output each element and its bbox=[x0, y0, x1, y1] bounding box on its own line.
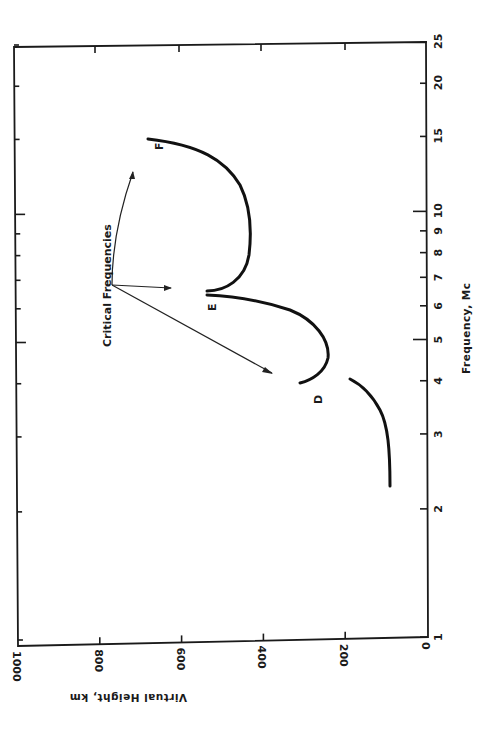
svg-text:800: 800 bbox=[92, 649, 105, 672]
plot-frame bbox=[14, 42, 428, 646]
critical-frequency-arrows bbox=[112, 171, 273, 374]
svg-text:400: 400 bbox=[255, 646, 268, 669]
svg-text:4: 4 bbox=[432, 377, 445, 385]
label-e: E bbox=[206, 303, 219, 311]
svg-text:6: 6 bbox=[432, 302, 445, 310]
height-axis-label: Virtual Height, km bbox=[69, 692, 187, 704]
svg-text:7: 7 bbox=[432, 274, 445, 282]
svg-text:8: 8 bbox=[432, 249, 445, 257]
frequency-ticks bbox=[14, 42, 427, 640]
frequency-tick-labels: 12345678910152025 bbox=[432, 34, 445, 641]
e-layer-curve bbox=[148, 139, 250, 291]
svg-text:2: 2 bbox=[432, 505, 445, 513]
label-d: D bbox=[312, 395, 325, 404]
svg-text:25: 25 bbox=[432, 34, 445, 49]
svg-text:0: 0 bbox=[419, 642, 432, 650]
svg-text:10: 10 bbox=[432, 203, 445, 219]
svg-text:20: 20 bbox=[432, 75, 445, 91]
svg-text:9: 9 bbox=[432, 227, 445, 235]
frequency-axis-label: Frequency, Mc bbox=[460, 283, 472, 374]
svg-text:1000: 1000 bbox=[10, 651, 23, 682]
svg-text:15: 15 bbox=[432, 128, 445, 143]
svg-text:200: 200 bbox=[337, 644, 350, 667]
svg-text:5: 5 bbox=[432, 336, 445, 344]
svg-text:3: 3 bbox=[432, 430, 445, 438]
svg-text:600: 600 bbox=[174, 647, 187, 670]
label-f: F bbox=[153, 142, 166, 150]
critical-frequencies-label: Critical Frequencies bbox=[101, 224, 114, 347]
lower-trace-curve bbox=[350, 379, 390, 486]
svg-text:1: 1 bbox=[432, 633, 445, 641]
height-tick-labels: 02004006008001000 bbox=[10, 642, 432, 682]
ionogram-chart: 12345678910152025 02004006008001000 F E … bbox=[0, 0, 496, 731]
